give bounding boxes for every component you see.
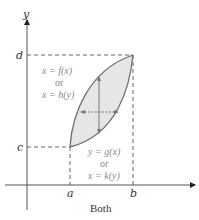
y-axis-label: y — [22, 8, 30, 21]
svg-text:x = h(y): x = h(y) — [41, 89, 75, 101]
x-tick-b: b — [130, 187, 137, 200]
svg-text:or: or — [55, 77, 64, 88]
svg-text:x = k(y): x = k(y) — [87, 170, 120, 182]
diagram-canvas: y d c a b x = f(x) or x = h(y) y = g(x) … — [0, 0, 199, 220]
y-tick-c: c — [17, 141, 23, 154]
x-tick-a: a — [67, 187, 74, 200]
y-tick-d: d — [16, 49, 23, 62]
svg-text:or: or — [100, 158, 109, 169]
bottom-curve-label: y = g(x) or x = k(y) — [87, 146, 121, 182]
shaded-region — [70, 55, 133, 147]
caption: Both — [90, 202, 112, 214]
svg-text:y = g(x): y = g(x) — [87, 146, 121, 158]
top-curve-label: x = f(x) or x = h(y) — [41, 65, 75, 101]
svg-text:x = f(x): x = f(x) — [41, 65, 73, 77]
